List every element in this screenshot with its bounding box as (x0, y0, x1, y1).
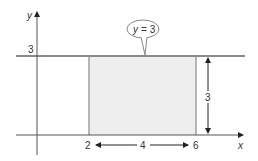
callout-tail (141, 37, 147, 55)
x-end-label: 6 (193, 140, 199, 151)
shaded-rectangle (89, 56, 196, 135)
x-axis-label: x (237, 140, 244, 151)
callout-text: y=3 (132, 24, 156, 35)
x-start-label: 2 (85, 140, 91, 151)
width-label: 4 (140, 140, 146, 151)
y-axis-label: y (26, 10, 33, 21)
diagram-canvas: y x 3 y=3 3 4 2 6 (0, 0, 258, 161)
height-label: 3 (205, 92, 211, 103)
y-tick-label-3: 3 (28, 44, 34, 55)
